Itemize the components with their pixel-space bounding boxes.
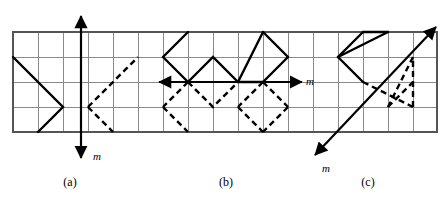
caption-a: (a)	[63, 175, 76, 189]
axis-label-m-a: m	[93, 150, 101, 162]
caption-c: (c)	[361, 175, 374, 189]
axis-label-m-b: m	[306, 75, 314, 87]
figure-container: m (a) m (b)	[0, 0, 443, 198]
figure-svg: m (a) m (b)	[0, 0, 443, 198]
axis-label-m-c: m	[322, 162, 330, 174]
caption-b: (b)	[219, 175, 233, 189]
canvas-background	[0, 0, 443, 198]
